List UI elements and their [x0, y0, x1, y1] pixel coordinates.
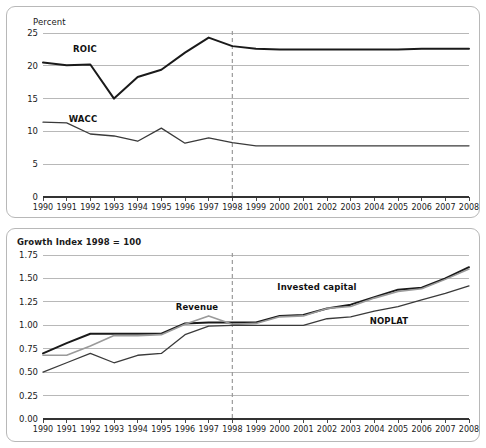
series-label-roic: ROIC	[73, 44, 97, 54]
x-axis-tick-label: 2001	[293, 425, 313, 434]
x-axis-tick-label: 2001	[293, 203, 313, 212]
y-axis-tick-label: 1.50	[7, 273, 38, 283]
y-axis-tick-label: 0.00	[7, 414, 38, 424]
x-axis-tick-label: 2000	[269, 203, 289, 212]
x-axis-tick-label: 1996	[175, 203, 195, 212]
y-axis-tick-label: 20	[7, 61, 38, 71]
x-axis-tick-label: 1998	[222, 425, 242, 434]
x-axis-tick-label: 1990	[33, 425, 53, 434]
bottom-chart-plot	[7, 229, 479, 441]
x-axis-tick-label: 2005	[388, 203, 408, 212]
x-axis-tick-label: 1999	[246, 203, 266, 212]
x-axis-tick-label: 1992	[80, 425, 100, 434]
x-axis-tick-label: 1995	[151, 203, 171, 212]
y-axis-tick-label: 25	[7, 28, 38, 38]
y-axis-tick-label: 0.75	[7, 344, 38, 354]
x-axis-tick-label: 1995	[151, 425, 171, 434]
x-axis-tick-label: 2007	[435, 203, 455, 212]
x-axis-tick-label: 2003	[340, 425, 360, 434]
x-axis-tick-label: 1998	[222, 203, 242, 212]
top-chart-plot	[7, 7, 479, 217]
x-axis-tick-label: 2007	[435, 425, 455, 434]
x-axis-tick-label: 2000	[269, 425, 289, 434]
x-axis-tick-label: 2002	[317, 203, 337, 212]
x-axis-tick-label: 1993	[104, 425, 124, 434]
x-axis-tick-label: 1991	[56, 203, 76, 212]
x-axis-tick-label: 1997	[198, 203, 218, 212]
series-label-revenue: Revenue	[176, 302, 219, 312]
x-axis-tick-label: 1992	[80, 203, 100, 212]
x-axis-tick-label: 2003	[340, 203, 360, 212]
x-axis-tick-label: 2002	[317, 425, 337, 434]
x-axis-tick-label: 1999	[246, 425, 266, 434]
y-axis-tick-label: 5	[7, 159, 38, 169]
x-axis-tick-label: 1994	[127, 203, 147, 212]
series-label-invested-capital: Invested capital	[277, 282, 356, 292]
x-axis-tick-label: 2004	[364, 203, 384, 212]
x-axis-tick-label: 1991	[56, 425, 76, 434]
x-axis-tick-label: 2004	[364, 425, 384, 434]
x-axis-tick-label: 1990	[33, 203, 53, 212]
chart-panel-roic-wacc: Percent 25201510501990199119921993199419…	[6, 6, 480, 218]
x-axis-tick-label: 2008	[459, 425, 479, 434]
x-axis-tick-label: 1996	[175, 425, 195, 434]
figure-root: Percent 25201510501990199119921993199419…	[0, 0, 486, 448]
y-axis-tick-label: 1.00	[7, 320, 38, 330]
x-axis-tick-label: 1994	[127, 425, 147, 434]
x-axis-tick-label: 1993	[104, 203, 124, 212]
y-axis-tick-label: 0	[7, 192, 38, 202]
y-axis-tick-label: 10	[7, 126, 38, 136]
y-axis-tick-label: 15	[7, 94, 38, 104]
x-axis-tick-label: 2008	[459, 203, 479, 212]
y-axis-tick-label: 0.25	[7, 391, 38, 401]
x-axis-tick-label: 2006	[411, 203, 431, 212]
chart-panel-growth-index: Growth Index 1998 = 100 1.751.501.251.00…	[6, 228, 480, 442]
x-axis-tick-label: 1997	[198, 425, 218, 434]
x-axis-tick-label: 2006	[411, 425, 431, 434]
series-label-wacc: WACC	[69, 114, 98, 124]
series-label-noplat: NOPLAT	[370, 316, 409, 326]
y-axis-tick-label: 1.25	[7, 297, 38, 307]
y-axis-tick-label: 0.50	[7, 367, 38, 377]
x-axis-tick-label: 2005	[388, 425, 408, 434]
y-axis-tick-label: 1.75	[7, 250, 38, 260]
